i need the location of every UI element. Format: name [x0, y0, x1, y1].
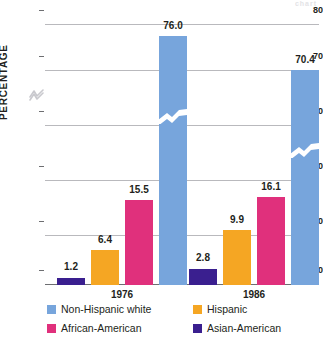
legend-swatch-non-hispanic-white [47, 305, 56, 314]
y-tick-dash-80 [39, 10, 44, 11]
bar-value-1986-hispanic: 9.9 [220, 215, 254, 225]
bar-1986-hispanic [223, 230, 251, 285]
legend-label-non-hispanic-white: Non-Hispanic white [61, 304, 151, 315]
bar-value-1986-asian-american: 2.8 [186, 253, 220, 263]
bar-1986-african-american [257, 197, 285, 285]
legend-item-non-hispanic-white[interactable]: Non-Hispanic white [47, 304, 151, 315]
bar-1986-asian-american [189, 269, 217, 285]
bar-1976-non-hispanic-white [159, 36, 187, 285]
bar-value-1986-non-hispanic-white: 70.4 [288, 55, 322, 65]
legend-label-hispanic: Hispanic [207, 304, 247, 315]
legend-swatch-african-american [47, 324, 56, 333]
bar-value-1976-african-american: 15.5 [122, 185, 156, 195]
legend-label-asian-american: Asian-American [207, 323, 281, 334]
legend-swatch-hispanic [193, 305, 202, 314]
bar-1976-hispanic [91, 250, 119, 285]
legend-item-hispanic[interactable]: Hispanic [193, 304, 247, 315]
x-tick-label-1976: 1976 [97, 289, 147, 300]
y-tick-dash-30 [39, 111, 44, 112]
bar-chart: chart PERCENTAGE 80 70 30 20 10 0 1.2 6.… [0, 0, 323, 352]
y-tick-dash-0 [39, 270, 44, 271]
bar-value-1976-hispanic: 6.4 [88, 235, 122, 245]
y-tick-dash-70 [39, 56, 44, 57]
y-tick-dash-10 [39, 221, 44, 222]
bar-1986-non-hispanic-white [291, 70, 319, 285]
bar-value-1976-asian-american: 1.2 [54, 262, 88, 272]
legend-label-african-american: African-American [61, 323, 142, 334]
y-axis-title: PERCENTAGE [0, 44, 9, 120]
legend-item-asian-american[interactable]: Asian-American [193, 323, 281, 334]
y-axis-break-icon [29, 88, 44, 102]
y-tick-dash-20 [39, 166, 44, 167]
chart-legend: Non-Hispanic white African-American Hisp… [47, 304, 323, 346]
x-tick-label-1986: 1986 [229, 289, 279, 300]
plot-area: 1.2 6.4 15.5 76.0 2.8 9.9 16.1 70.4 1976… [45, 14, 319, 285]
bar-1976-african-american [125, 200, 153, 285]
legend-item-african-american[interactable]: African-American [47, 323, 142, 334]
bar-value-1986-african-american: 16.1 [254, 182, 288, 192]
bar-1976-asian-american [57, 278, 85, 285]
bar-break-icon-1976 [159, 108, 187, 124]
bar-value-1976-non-hispanic-white: 76.0 [156, 21, 190, 31]
bar-break-icon-1986 [291, 142, 319, 158]
legend-swatch-asian-american [193, 324, 202, 333]
